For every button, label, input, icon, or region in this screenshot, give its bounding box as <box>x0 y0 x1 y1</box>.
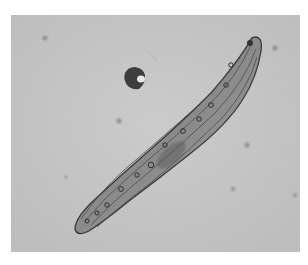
micrograph <box>11 15 300 252</box>
micrograph-scene <box>11 15 300 252</box>
contractile-vacuole <box>247 40 253 46</box>
